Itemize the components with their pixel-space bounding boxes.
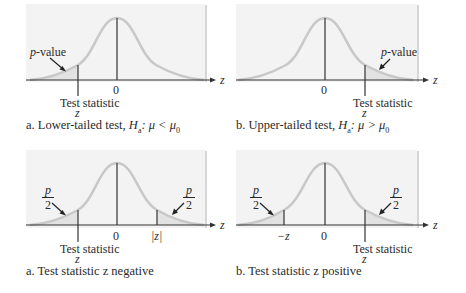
panel-z-negative: p2 p2 0 |z| z Test statistic z a. Test s… (0, 146, 233, 293)
neg-z-label: −z (277, 230, 290, 242)
left-p-over-2-label: p2 (250, 184, 262, 211)
right-p-over-2-label: p2 (390, 184, 402, 211)
test-statistic-label: Test statistic (60, 97, 119, 109)
p-value-label: p-value (30, 46, 66, 58)
tick-zero: 0 (113, 230, 119, 242)
plot-background (26, 4, 205, 82)
p-value-label: p-value (381, 46, 417, 58)
caption-z-positive: b. Test statistic z positive (236, 265, 362, 278)
axis-label-z: z (433, 219, 438, 231)
tick-zero: 0 (321, 84, 327, 96)
panel-lower-tailed: p-value 0 z Test statistic z a. Lower-ta… (0, 0, 233, 146)
axis-label-z: z (220, 219, 225, 231)
panel-z-positive: p2 p2 0 −z z Test statistic z b. Test st… (233, 146, 466, 293)
axis-label-z: z (433, 74, 438, 86)
test-statistic-label: Test statistic (60, 243, 119, 255)
panel-upper-tailed: p-value 0 z Test statistic z b. Upper-ta… (233, 0, 466, 146)
caption-lower-tailed: a. Lower-tailed test, Ha: μ < μ0 (26, 119, 180, 135)
plot-background (236, 4, 417, 82)
test-statistic-var: z (362, 253, 367, 265)
axis-arrow-icon (210, 78, 216, 83)
tick-zero: 0 (113, 84, 119, 96)
right-p-over-2-label: p2 (183, 184, 195, 211)
caption-upper-tailed: b. Upper-tailed test, Ha: μ > μ0 (236, 119, 389, 135)
tick-zero: 0 (321, 230, 327, 242)
axis-arrow-icon (210, 223, 216, 228)
axis-arrow-icon (423, 78, 429, 83)
abs-z-label: |z| (151, 230, 162, 242)
axis-label-z: z (220, 74, 225, 86)
left-p-over-2-label: p2 (42, 184, 54, 211)
caption-z-negative: a. Test statistic z negative (26, 265, 154, 278)
axis-arrow-icon (423, 223, 429, 228)
